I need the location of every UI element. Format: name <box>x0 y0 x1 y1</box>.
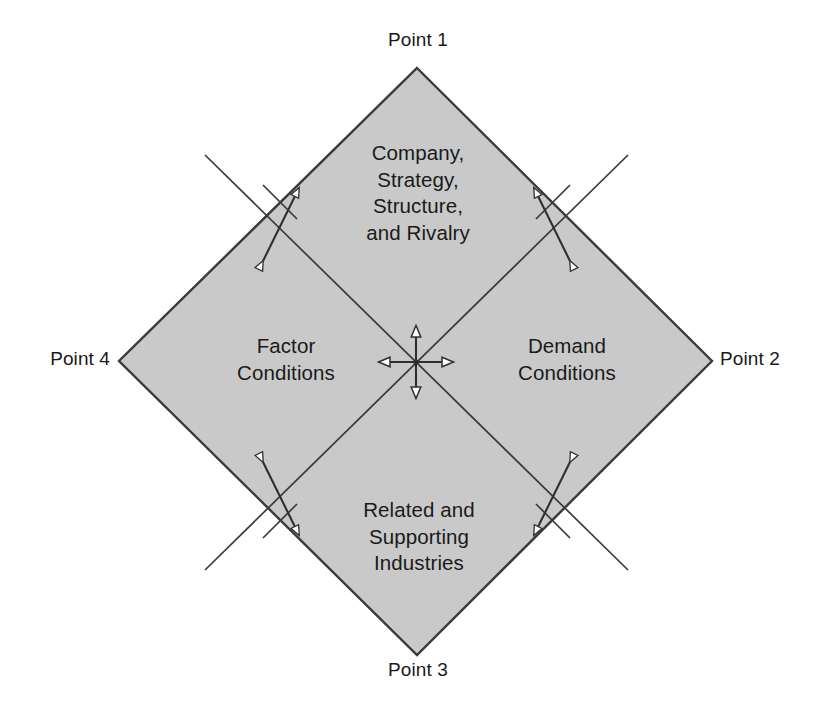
point-label-1: Point 1 <box>328 28 508 53</box>
point-label-3: Point 3 <box>328 658 508 683</box>
quadrant-label-factor-conditions: Factor Conditions <box>196 333 376 386</box>
quadrant-label-demand-conditions: Demand Conditions <box>472 333 662 386</box>
diagram-canvas: Company, Strategy, Structure, and Rivalr… <box>0 0 833 714</box>
point-label-4: Point 4 <box>0 347 110 372</box>
porters-diamond-graphic <box>0 0 833 714</box>
quadrant-label-company-strategy-structure-rivalry: Company, Strategy, Structure, and Rivalr… <box>308 140 528 247</box>
point-label-2: Point 2 <box>720 347 833 372</box>
quadrant-label-related-supporting-industries: Related and Supporting Industries <box>312 497 526 577</box>
